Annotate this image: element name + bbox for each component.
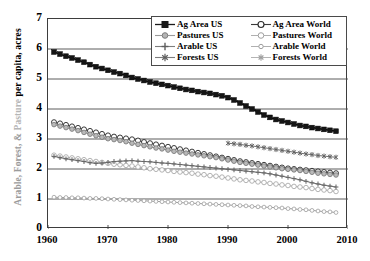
y-tick-0: 0 bbox=[20, 222, 42, 234]
legend-item-forests-world[interactable]: Forests World bbox=[251, 52, 345, 63]
series-arable-world bbox=[52, 195, 338, 214]
chart-figure: Arable, Forest, & Pasture per capita, ac… bbox=[0, 0, 370, 261]
legend-label-arable-world: Arable World bbox=[273, 42, 326, 51]
legend-item-pastures-world[interactable]: Pastures World bbox=[251, 30, 345, 41]
series-forests-us bbox=[226, 141, 338, 160]
legend-marker-open-circle-light-icon bbox=[251, 31, 271, 40]
x-tick-1960: 1960 bbox=[37, 234, 58, 245]
legend-label-ag-area-us: Ag Area US bbox=[177, 20, 222, 29]
y-tick-4: 4 bbox=[20, 102, 42, 114]
x-tick-2010: 2010 bbox=[337, 234, 358, 245]
legend-label-forests-us: Forests US bbox=[177, 53, 219, 62]
legend-item-pastures-us[interactable]: Pastures US bbox=[155, 30, 249, 41]
x-tick-1980: 1980 bbox=[157, 234, 178, 245]
series-layer bbox=[52, 50, 339, 215]
x-tick-marks bbox=[48, 225, 348, 229]
legend-marker-star-open-icon bbox=[251, 53, 271, 62]
legend-label-forests-world: Forests World bbox=[273, 53, 327, 62]
legend-item-ag-area-world[interactable]: Ag Area World bbox=[251, 19, 345, 30]
x-tick-1990: 1990 bbox=[217, 234, 238, 245]
y-tick-3: 3 bbox=[20, 132, 42, 144]
legend-label-arable-us: Arable US bbox=[177, 42, 217, 51]
legend-marker-open-circle-tiny-icon bbox=[251, 42, 271, 51]
series-pastures-world bbox=[52, 153, 339, 194]
legend-marker-plus-gray-icon bbox=[155, 42, 175, 51]
series-ag-area-world bbox=[52, 120, 339, 176]
y-tick-1: 1 bbox=[20, 192, 42, 204]
legend-label-pastures-us: Pastures US bbox=[177, 31, 224, 40]
legend-marker-open-circle-icon bbox=[251, 20, 271, 29]
chart-legend: Ag Area US Ag Area World Pastures US Pas… bbox=[151, 16, 347, 66]
legend-item-ag-area-us[interactable]: Ag Area US bbox=[155, 19, 249, 30]
y-axis-ticks: 7 6 5 4 3 2 1 0 bbox=[16, 0, 42, 261]
legend-item-arable-world[interactable]: Arable World bbox=[251, 41, 345, 52]
legend-item-arable-us[interactable]: Arable US bbox=[155, 41, 249, 52]
legend-marker-filled-square-icon bbox=[155, 20, 175, 29]
y-tick-5: 5 bbox=[20, 72, 42, 84]
x-tick-1970: 1970 bbox=[97, 234, 118, 245]
legend-label-ag-area-world: Ag Area World bbox=[273, 20, 331, 29]
y-tick-6: 6 bbox=[20, 42, 42, 54]
legend-label-pastures-world: Pastures World bbox=[273, 31, 332, 40]
y-tick-7: 7 bbox=[20, 12, 42, 24]
legend-item-forests-us[interactable]: Forests US bbox=[155, 52, 249, 63]
legend-marker-star-gray-icon bbox=[155, 53, 175, 62]
y-tick-2: 2 bbox=[20, 162, 42, 174]
x-tick-2000: 2000 bbox=[277, 234, 298, 245]
legend-marker-filled-circle-gray-icon bbox=[155, 31, 175, 40]
